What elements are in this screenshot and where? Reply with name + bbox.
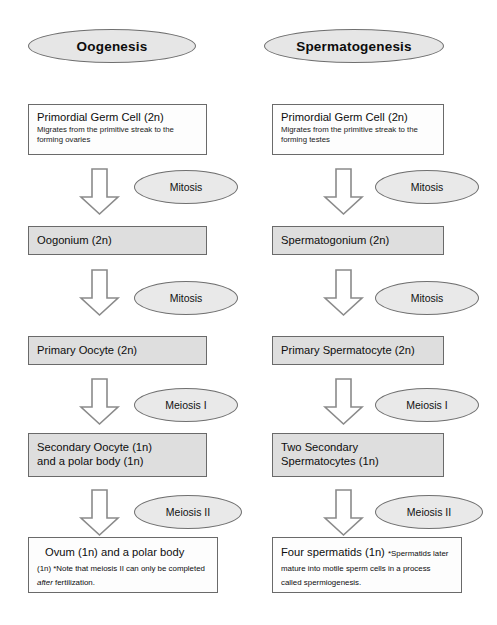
node-spermatogenesis-step-1-title: Primordial Germ Cell (2n) bbox=[281, 110, 435, 124]
node-spermatogenesis-step-2: Spermatogonium (2n) bbox=[272, 226, 444, 255]
transition-spermatogenesis-1: Mitosis bbox=[375, 170, 479, 204]
arrow-spermatogenesis-2 bbox=[322, 269, 366, 317]
node-oogenesis-step-3: Primary Oocyte (2n) bbox=[28, 336, 207, 365]
node-oogenesis-step-5-note-b: fertilization. bbox=[53, 578, 95, 587]
arrow-oogenesis-2 bbox=[78, 269, 122, 317]
node-spermatogenesis-step-3-title: Primary Spermatocyte (2n) bbox=[281, 343, 435, 358]
transition-spermatogenesis-2: Mitosis bbox=[375, 281, 479, 315]
column-title-oogenesis: Oogenesis bbox=[28, 29, 196, 63]
node-oogenesis-step-5-text: Ovum (1n) and a polar body (1n) *Note th… bbox=[37, 545, 209, 589]
arrow-oogenesis-3 bbox=[78, 378, 122, 426]
transition-oogenesis-1-label: Mitosis bbox=[170, 181, 203, 193]
column-title-spermatogenesis-label: Spermatogenesis bbox=[296, 39, 412, 54]
arrow-oogenesis-4 bbox=[78, 489, 122, 537]
transition-oogenesis-1: Mitosis bbox=[134, 170, 238, 204]
transition-oogenesis-3: Meiosis I bbox=[134, 388, 238, 422]
transition-spermatogenesis-1-label: Mitosis bbox=[411, 181, 444, 193]
node-oogenesis-step-1-title: Primordial Germ Cell (2n) bbox=[37, 110, 198, 124]
arrow-spermatogenesis-3 bbox=[322, 378, 366, 426]
node-oogenesis-step-2: Oogonium (2n) bbox=[28, 226, 207, 255]
node-oogenesis-step-1: Primordial Germ Cell (2n) Migrates from … bbox=[28, 104, 207, 155]
node-oogenesis-step-1-subtitle: Migrates from the primitive streak to th… bbox=[37, 125, 198, 144]
node-oogenesis-step-4: Secondary Oocyte (1n) and a polar body (… bbox=[28, 433, 207, 477]
node-spermatogenesis-step-1-subtitle: Migrates from the primitive streak to th… bbox=[281, 125, 435, 144]
arrow-spermatogenesis-4 bbox=[322, 489, 366, 537]
node-oogenesis-step-4-title: Secondary Oocyte (1n) and a polar body (… bbox=[37, 440, 198, 468]
transition-oogenesis-2-label: Mitosis bbox=[170, 292, 203, 304]
node-oogenesis-step-2-title: Oogonium (2n) bbox=[37, 233, 198, 248]
transition-oogenesis-2: Mitosis bbox=[134, 281, 238, 315]
transition-oogenesis-3-label: Meiosis I bbox=[165, 399, 206, 411]
arrow-spermatogenesis-1 bbox=[322, 168, 366, 216]
node-oogenesis-step-5: Ovum (1n) and a polar body (1n) *Note th… bbox=[28, 537, 218, 593]
node-oogenesis-step-3-title: Primary Oocyte (2n) bbox=[37, 343, 198, 358]
node-spermatogenesis-step-4-title: Two Secondary Spermatocytes (1n) bbox=[281, 440, 435, 468]
node-spermatogenesis-step-1: Primordial Germ Cell (2n) Migrates from … bbox=[272, 104, 444, 155]
node-oogenesis-step-5-note-emphasis: after bbox=[37, 578, 53, 587]
transition-spermatogenesis-2-label: Mitosis bbox=[411, 292, 444, 304]
node-spermatogenesis-step-2-title: Spermatogonium (2n) bbox=[281, 233, 435, 248]
node-spermatogenesis-step-4: Two Secondary Spermatocytes (1n) bbox=[272, 433, 444, 477]
transition-oogenesis-4: Meiosis II bbox=[134, 495, 242, 529]
node-spermatogenesis-step-5: Four spermatids (1n) *Spermatids later m… bbox=[272, 537, 462, 593]
transition-spermatogenesis-4: Meiosis II bbox=[375, 495, 483, 529]
node-oogenesis-step-5-note-a: (1n) *Note that meiosis II can only be c… bbox=[37, 564, 205, 573]
node-spermatogenesis-step-3: Primary Spermatocyte (2n) bbox=[272, 336, 444, 365]
transition-spermatogenesis-3: Meiosis I bbox=[375, 388, 479, 422]
node-oogenesis-step-5-title: Ovum (1n) and a polar body bbox=[45, 546, 184, 558]
transition-oogenesis-4-label: Meiosis II bbox=[166, 506, 210, 518]
node-spermatogenesis-step-5-title: Four spermatids (1n) bbox=[281, 546, 388, 558]
node-spermatogenesis-step-5-text: Four spermatids (1n) *Spermatids later m… bbox=[281, 545, 453, 589]
column-title-spermatogenesis: Spermatogenesis bbox=[264, 29, 444, 63]
column-title-oogenesis-label: Oogenesis bbox=[77, 39, 148, 54]
diagram-canvas: Oogenesis Primordial Germ Cell (2n) Migr… bbox=[0, 0, 497, 625]
arrow-oogenesis-1 bbox=[78, 168, 122, 216]
transition-spermatogenesis-3-label: Meiosis I bbox=[406, 399, 447, 411]
transition-spermatogenesis-4-label: Meiosis II bbox=[407, 506, 451, 518]
